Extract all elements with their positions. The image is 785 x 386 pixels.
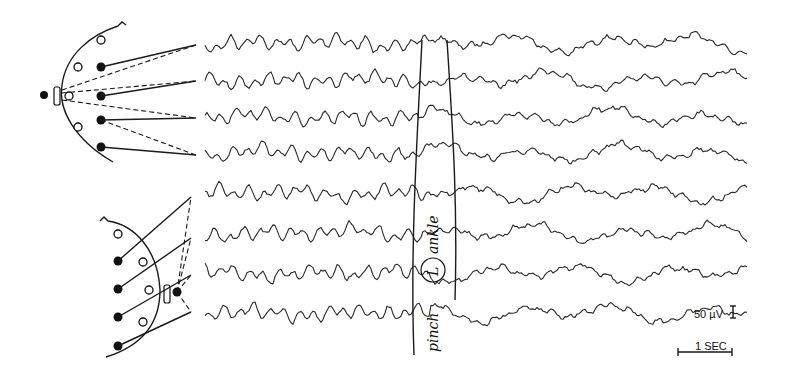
lower-electrode-open bbox=[114, 230, 122, 238]
upper-electrode-open bbox=[74, 63, 82, 71]
upper-lead-solid bbox=[101, 45, 196, 67]
amplitude-scale-label: 50 µV bbox=[694, 308, 724, 320]
upper-lead-dashed bbox=[101, 120, 196, 155]
upper-electrode-open bbox=[65, 92, 73, 100]
eeg-channel-trace bbox=[205, 140, 747, 164]
upper-lead-solid bbox=[101, 118, 196, 120]
upper-electrode-open bbox=[97, 36, 105, 44]
lower-head-diagram bbox=[100, 197, 191, 357]
annotation-ankle: ankle bbox=[425, 215, 441, 254]
annotation-pinch: pinch bbox=[425, 313, 441, 352]
eeg-figure: pinch L ankle 50 µV 1 SEC bbox=[0, 0, 785, 386]
upper-ear-marker bbox=[54, 87, 60, 105]
upper-nasion-marker bbox=[40, 91, 48, 99]
lower-electrode-open bbox=[139, 318, 147, 326]
lower-electrode-open bbox=[139, 258, 147, 266]
eeg-channel-trace bbox=[205, 32, 747, 56]
eeg-channel-trace bbox=[205, 181, 747, 205]
upper-electrode-open bbox=[74, 123, 82, 131]
upper-lead-solid bbox=[101, 81, 196, 96]
eeg-channel-trace bbox=[205, 302, 747, 326]
eeg-channel-trace bbox=[205, 68, 747, 91]
time-scale: 1 SEC bbox=[678, 340, 732, 356]
eeg-channel-trace bbox=[205, 220, 747, 243]
upper-head-diagram bbox=[40, 22, 196, 162]
eeg-traces bbox=[205, 32, 747, 326]
amplitude-scale: 50 µV bbox=[694, 306, 736, 320]
eeg-channel-trace bbox=[205, 105, 747, 127]
lower-electrode-open bbox=[145, 286, 153, 294]
upper-lead-solid bbox=[101, 147, 196, 155]
stimulus-annotation: pinch L ankle bbox=[421, 215, 445, 352]
annotation-side-label: L bbox=[425, 267, 441, 277]
time-scale-label: 1 SEC bbox=[695, 340, 727, 352]
lower-lead-dashed bbox=[177, 292, 191, 312]
upper-lead-dashed bbox=[62, 100, 196, 118]
eeg-channel-trace bbox=[205, 263, 747, 285]
